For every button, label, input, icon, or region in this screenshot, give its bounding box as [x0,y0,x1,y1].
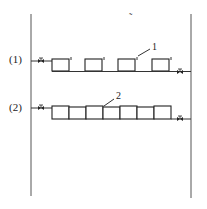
radiator-1-3 [118,59,135,71]
valve-icon [177,69,183,74]
radiator-2-4 [103,107,120,119]
radiator-2-7 [154,106,171,119]
radiator-2-2 [69,107,86,119]
callout-1: 1 [152,41,157,52]
radiator-2-6 [137,107,154,119]
row-2: (2) 2 [9,90,191,121]
radiator-1-1 [52,59,69,71]
radiator-2-1 [52,106,69,119]
callout-2-leader [104,99,114,106]
valve-icon [177,116,183,121]
stray-mark: ˜ [129,12,133,23]
valve-icon [38,58,44,63]
radiator-2-5 [120,106,137,119]
radiator-1-2 [85,59,102,71]
radiator-2-3 [86,106,103,119]
row-2-label: (2) [9,101,22,114]
row-1: (1) 1 [9,41,191,74]
row-1-label: (1) [9,53,22,66]
callout-1-leader [138,49,150,56]
valve-icon [38,105,44,110]
callout-2: 2 [116,90,121,101]
piping-diagram: ˜ (1) 1 (2) [0,0,207,209]
radiator-1-4 [152,59,169,71]
